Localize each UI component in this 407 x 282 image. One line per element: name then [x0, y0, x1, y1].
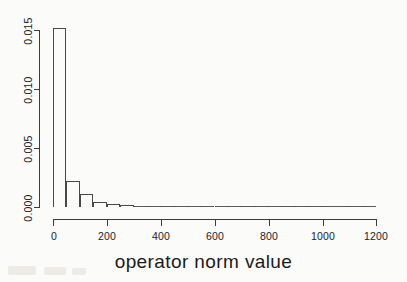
- histogram-bar: [107, 204, 120, 207]
- histogram-bar: [363, 206, 376, 207]
- x-tick-600: [215, 220, 216, 226]
- histogram-bar: [174, 206, 187, 207]
- histogram-bar: [268, 206, 281, 207]
- x-tick-label-1200: 1200: [359, 230, 393, 242]
- histogram-bar: [66, 181, 79, 207]
- y-tick-label-0.010: 0.010: [22, 68, 34, 112]
- x-tick-label-400: 400: [146, 230, 176, 242]
- histogram-bar: [255, 206, 268, 207]
- y-tick-0.005: [34, 148, 39, 149]
- histogram-bar: [161, 206, 174, 207]
- histogram-bar: [309, 206, 322, 207]
- y-tick-0.010: [34, 89, 39, 90]
- x-tick-200: [107, 220, 108, 226]
- y-tick-0.000: [34, 207, 39, 208]
- x-tick-label-1000: 1000: [306, 230, 340, 242]
- histogram-bar: [93, 202, 106, 207]
- histogram-bar: [188, 206, 201, 207]
- histogram-bar: [241, 206, 254, 207]
- x-tick-400: [161, 220, 162, 226]
- y-axis-line: [39, 30, 40, 208]
- x-tick-1200: [376, 220, 377, 226]
- histogram-figure: 0.015 0.010 0.005 0.000 0 200 400 600 80…: [0, 0, 407, 282]
- histogram-bar: [349, 206, 362, 207]
- x-axis-label: operator norm value: [0, 251, 407, 273]
- histogram-bar: [120, 205, 133, 207]
- y-tick-label-0.005: 0.005: [22, 127, 34, 171]
- x-tick-0: [53, 220, 54, 226]
- x-tick-label-600: 600: [200, 230, 230, 242]
- histogram-bar: [322, 206, 335, 207]
- x-tick-1000: [323, 220, 324, 226]
- histogram-bar: [295, 206, 308, 207]
- histogram-bar: [215, 206, 228, 207]
- histogram-bar: [53, 28, 66, 207]
- y-tick-0.015: [34, 30, 39, 31]
- histogram-bar: [134, 206, 147, 207]
- y-tick-label-0.000: 0.000: [22, 186, 34, 230]
- x-tick-label-200: 200: [92, 230, 122, 242]
- x-tick-label-800: 800: [254, 230, 284, 242]
- histogram-bar: [201, 206, 214, 207]
- histogram-bar: [336, 206, 349, 207]
- y-tick-label-0.015: 0.015: [22, 9, 34, 53]
- histogram-bar: [228, 206, 241, 207]
- histogram-bar: [282, 206, 295, 207]
- histogram-bar: [147, 206, 160, 207]
- x-tick-label-0: 0: [44, 230, 64, 242]
- x-tick-800: [269, 220, 270, 226]
- histogram-bar: [80, 194, 93, 207]
